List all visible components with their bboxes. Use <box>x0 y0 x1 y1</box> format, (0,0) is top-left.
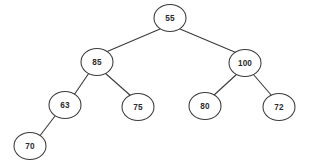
node-label-75: 75 <box>133 103 143 112</box>
tree-edges-group <box>39 29 272 137</box>
tree-node-80[interactable]: 80 <box>189 93 221 120</box>
tree-edge-63-to-70 <box>39 116 55 137</box>
node-label-85: 85 <box>92 58 102 67</box>
tree-node-63[interactable]: 63 <box>49 92 81 119</box>
tree-svg-canvas: 55851006375807270 <box>0 0 309 168</box>
tree-node-100[interactable]: 100 <box>229 50 261 77</box>
tree-edge-100-to-80 <box>213 74 237 96</box>
node-label-55: 55 <box>165 14 175 23</box>
tree-node-72[interactable]: 72 <box>263 94 295 121</box>
tree-edge-85-to-75 <box>105 73 131 96</box>
tree-node-75[interactable]: 75 <box>122 94 154 121</box>
node-label-72: 72 <box>274 103 284 112</box>
tree-edge-85-to-63 <box>74 73 89 95</box>
tree-node-55[interactable]: 55 <box>154 5 186 32</box>
node-label-100: 100 <box>238 59 252 68</box>
tree-edge-55-to-100 <box>180 29 237 53</box>
node-label-70: 70 <box>25 142 35 151</box>
binary-tree-diagram: 55851006375807270 <box>0 0 309 168</box>
node-label-63: 63 <box>60 101 70 110</box>
tree-edge-100-to-72 <box>253 74 272 96</box>
tree-nodes-group: 55851006375807270 <box>14 5 295 160</box>
tree-node-85[interactable]: 85 <box>81 49 113 76</box>
tree-edge-55-to-85 <box>106 29 160 52</box>
tree-node-70[interactable]: 70 <box>14 133 46 160</box>
node-label-80: 80 <box>200 102 210 111</box>
